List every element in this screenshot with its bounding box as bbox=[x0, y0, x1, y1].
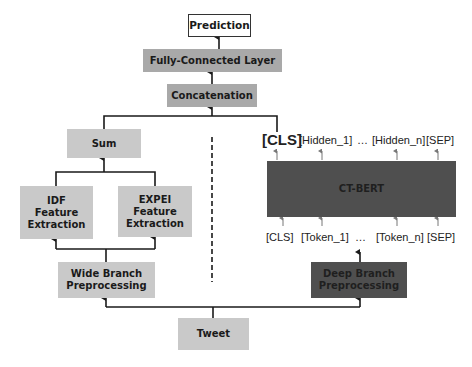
input-token-1: [Token_1] bbox=[301, 231, 349, 243]
expei-label-line-3: Extraction bbox=[126, 218, 184, 230]
idf-label-line-1: IDF bbox=[47, 195, 66, 207]
input-ellipsis: … bbox=[355, 231, 366, 243]
concatenation-label: Concatenation bbox=[171, 90, 253, 102]
tweet-label: Tweet bbox=[197, 328, 230, 340]
expei-label-line-2: Feature bbox=[133, 206, 177, 218]
idf-label-line-3: Extraction bbox=[28, 219, 86, 231]
expei-label-line-1: EXPEI bbox=[139, 194, 171, 206]
output-cls-token: [CLS] bbox=[262, 131, 302, 148]
output-hidden-1-token: [Hidden_1] bbox=[299, 134, 352, 146]
idf-feature-extraction-node: IDF Feature Extraction bbox=[20, 186, 93, 239]
fully-connected-label: Fully-Connected Layer bbox=[150, 55, 275, 67]
input-cls-token: [CLS] bbox=[266, 231, 294, 243]
input-sep-token: [SEP] bbox=[427, 231, 455, 243]
output-hidden-n-token: [Hidden_n] bbox=[372, 134, 425, 146]
wide-branch-label-line-2: Preprocessing bbox=[66, 280, 146, 292]
input-token-n: [Token_n] bbox=[376, 231, 424, 243]
tweet-node: Tweet bbox=[178, 318, 249, 350]
ct-bert-label: CT-BERT bbox=[339, 183, 384, 195]
expei-feature-extraction-node: EXPEI Feature Extraction bbox=[118, 186, 192, 237]
sum-label: Sum bbox=[92, 138, 117, 150]
prediction-node: Prediction bbox=[188, 14, 251, 37]
deep-branch-label-line-2: Preprocessing bbox=[319, 280, 399, 292]
output-ellipsis: … bbox=[357, 134, 368, 146]
deep-branch-preprocessing-node: Deep Branch Preprocessing bbox=[311, 262, 407, 298]
sum-node: Sum bbox=[67, 129, 141, 158]
prediction-label: Prediction bbox=[189, 19, 250, 32]
idf-label-line-2: Feature bbox=[35, 207, 79, 219]
deep-branch-label-line-1: Deep Branch bbox=[323, 268, 395, 280]
concatenation-node: Concatenation bbox=[167, 84, 257, 107]
output-sep-token: [SEP] bbox=[426, 134, 454, 146]
fully-connected-layer-node: Fully-Connected Layer bbox=[143, 49, 282, 72]
wide-branch-preprocessing-node: Wide Branch Preprocessing bbox=[58, 262, 155, 298]
wide-branch-label-line-1: Wide Branch bbox=[71, 268, 142, 280]
ct-bert-node: CT-BERT bbox=[267, 161, 456, 217]
